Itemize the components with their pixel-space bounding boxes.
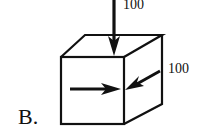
side-force-label: 100: [168, 61, 189, 76]
cube-force-diagram: 100 100 B.: [0, 0, 202, 129]
side-force-arrow-icon: [125, 71, 160, 90]
front-force-arrow-icon: [70, 83, 121, 95]
top-force-label: 100: [123, 0, 144, 12]
option-label: B.: [18, 104, 38, 129]
top-force-arrow-icon: [108, 0, 120, 56]
